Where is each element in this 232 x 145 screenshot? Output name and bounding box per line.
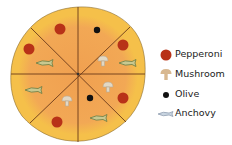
legend-item-anchovy: Anchovy — [158, 106, 232, 122]
legend-item-mushroom: Mushroom — [158, 67, 232, 83]
olive-icon — [158, 87, 174, 103]
legend-item-pepperoni: Pepperoni — [158, 47, 232, 63]
pepperoni-icon — [158, 47, 174, 63]
legend-label: Anchovy — [175, 107, 216, 118]
anchovy-icon — [158, 106, 174, 122]
legend-label: Pepperoni — [175, 48, 222, 59]
mushroom-icon — [158, 67, 174, 83]
legend-item-olive: Olive — [158, 87, 232, 103]
pizza-diagram — [0, 0, 160, 145]
legend-label: Olive — [175, 88, 199, 99]
legend-label: Mushroom — [175, 68, 225, 79]
